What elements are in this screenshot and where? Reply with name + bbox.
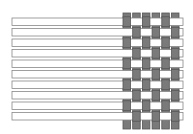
warp-over-segment <box>152 69 160 79</box>
warp-over-segment <box>152 48 160 58</box>
warp-over-segment <box>133 90 141 100</box>
weft-strip <box>12 39 183 47</box>
weft-strip <box>12 102 183 110</box>
warp-over-segment <box>162 38 170 48</box>
warp-over-segment <box>123 59 131 69</box>
warp-over-segment <box>123 80 131 90</box>
warp-over-segment <box>152 111 160 121</box>
warp-over-segment <box>133 111 141 121</box>
weft-strip <box>12 18 183 26</box>
warp-over-segment <box>172 90 180 100</box>
warp-over-segment <box>133 69 141 79</box>
warp-over-segment <box>162 80 170 90</box>
warp-over-segment <box>162 59 170 69</box>
warp-over-segment <box>172 111 180 121</box>
warp-over-segment <box>142 101 150 111</box>
warp-over-segment <box>142 38 150 48</box>
warp-over-segment <box>142 59 150 69</box>
warp-over-segment <box>172 69 180 79</box>
warp-over-segment <box>142 80 150 90</box>
warp-over-segment <box>133 27 141 37</box>
warp-over-segment <box>152 27 160 37</box>
warp-over-segment <box>172 48 180 58</box>
weft-strip <box>12 60 183 68</box>
weave-svg <box>0 0 193 134</box>
warp-over-segment <box>142 17 150 27</box>
weft-strip <box>12 81 183 89</box>
warp-over-segment <box>162 17 170 27</box>
warp-over-segment <box>123 17 131 27</box>
warp-over-segment <box>123 38 131 48</box>
warp-over-segment <box>133 48 141 58</box>
warp-over-segment <box>172 27 180 37</box>
warp-over-segment <box>152 90 160 100</box>
warp-over-segment <box>162 101 170 111</box>
warp-over-segment <box>123 101 131 111</box>
weave-diagram <box>0 0 193 134</box>
